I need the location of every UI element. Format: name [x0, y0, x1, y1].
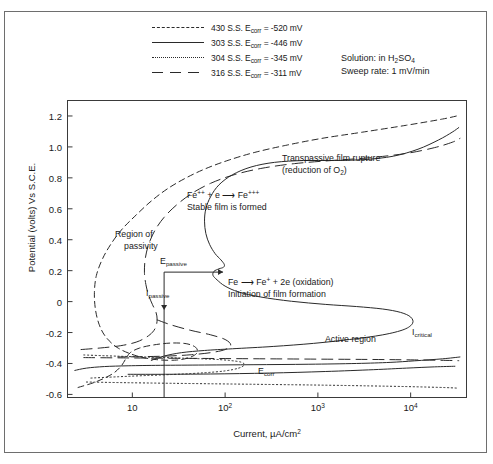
annotation-region-of-passivity: Region of passivity: [115, 229, 158, 252]
annotation-oxidation-line1: Fe ⟶ Fe+ + 2e (oxidation): [228, 277, 334, 289]
annotation-i-passive: Ipassive: [146, 288, 169, 300]
marker-lines: [161, 269, 223, 397]
annotation-passivity-line1: Region of: [115, 229, 158, 241]
annotation-passivity-line2: passivity: [115, 241, 158, 253]
figure-container: 430 S.S. Ecorr = -520 mV 303 S.S. Ecorr …: [0, 0, 493, 464]
curve-303-s-s-anodic: [128, 366, 455, 374]
e-passive-arrowhead-icon: [218, 269, 223, 275]
annotation-i-critical: Icritical: [412, 327, 432, 339]
annotation-oxidation-line2: Initiation of film formation: [228, 289, 334, 301]
annotation-stable-film: Fe++ + e ⟶ Fe+++ Stable film is formed: [187, 190, 267, 213]
annotation-active-region: Active region: [325, 334, 376, 346]
annotation-transpassive-line1: Transpassive film rupture: [282, 153, 380, 165]
annotation-e-corr: Ecorr: [258, 366, 275, 378]
annotation-stable-film-line2: Stable film is formed: [187, 202, 267, 214]
annotation-transpassive: Transpassive film rupture (reduction of …: [282, 153, 380, 176]
curve-304-s-s-lower: [86, 382, 458, 388]
plot-canvas: [0, 0, 493, 464]
annotation-e-passive: Epassive: [160, 256, 187, 268]
annotation-oxidation: Fe ⟶ Fe+ + 2e (oxidation) Initiation of …: [228, 277, 334, 300]
annotation-stable-film-line1: Fe++ + e ⟶ Fe+++: [187, 190, 267, 202]
curve-316-s-s-active-loop: [118, 320, 231, 357]
annotation-transpassive-line2: (reduction of O2): [282, 165, 380, 177]
i-passive-arrowhead-icon: [161, 305, 167, 310]
curve-316-s-s-cathodic: [84, 358, 459, 361]
